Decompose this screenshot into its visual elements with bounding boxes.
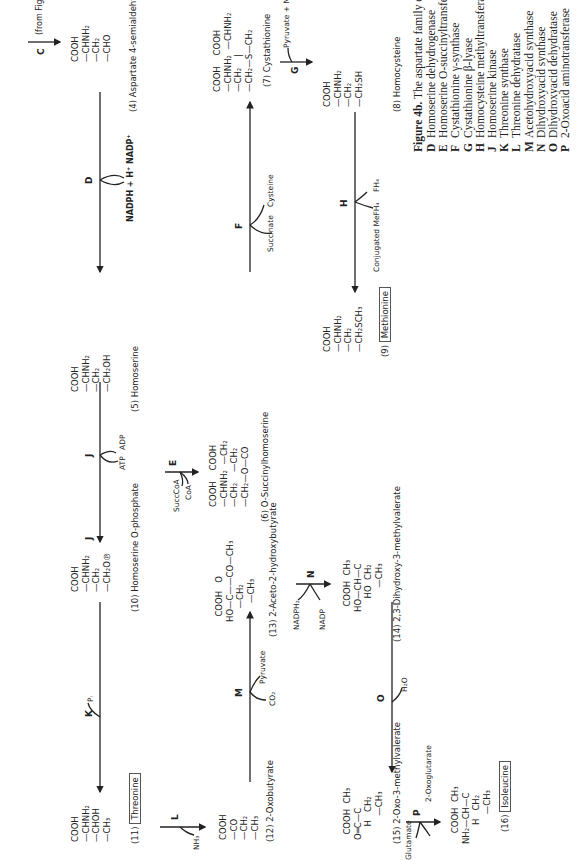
- enzyme-label-e: E: [168, 460, 178, 466]
- enzyme-label-f: F: [234, 223, 244, 229]
- legend-item: LThreonine dehydratase: [510, 0, 522, 152]
- enzyme-label-j2: J: [84, 537, 94, 540]
- compound-7-structure: COOH COOH—CHNH₂ —CHNH₂—CH₂ |—CH₂—S—CH₂: [212, 13, 254, 92]
- o-out: H₂O: [400, 677, 409, 692]
- e-in: SuccCoA: [172, 479, 181, 512]
- p-out: 2-Oxoglutarate: [424, 745, 433, 802]
- n-in: NADPH₂: [292, 600, 301, 630]
- entry-note: (from Fig. 4a): [35, 0, 44, 35]
- j1-out: ADP: [118, 435, 127, 450]
- enzyme-label-j1: J: [84, 454, 94, 457]
- m-out: CO₂: [268, 692, 277, 706]
- compound-5-structure: COOH—CHNH₂—CH₂—CH₂OH: [70, 355, 112, 392]
- p-in: Glutamate: [404, 820, 413, 860]
- h-in: Conjugated MeFH₄: [372, 202, 381, 272]
- n-out: NADP: [318, 609, 327, 630]
- compound-13-structure: COOH O HO—C——CO—CH₃ —CH₂ —CH₃: [214, 541, 256, 622]
- compound-10-name: (10) Homoserine O-phosphate: [130, 483, 140, 612]
- enzyme-label-d: D: [84, 177, 94, 184]
- compound-16-structure: COOH CH₃NH₂—CH—C H CH₂ —CH₃: [450, 786, 492, 844]
- legend-item: KThreonine synthase: [498, 0, 510, 152]
- j1-in: ATP: [118, 456, 127, 470]
- enzyme-label-p: P: [412, 809, 422, 816]
- compound-16-name: (16) Isoleucine: [500, 761, 510, 832]
- m-in: Pyruvate: [258, 651, 267, 684]
- compound-12-structure: COOH—CO—CH₂—CH₃: [218, 814, 260, 840]
- enzyme-label-g: G: [290, 67, 300, 74]
- threonine-box: Threonine: [129, 773, 141, 824]
- legend-item: HHomocysteine methyltransferase: [474, 0, 486, 152]
- compound-8-structure: COOH—CHNH₂—CH₂—CH₂SH: [322, 70, 364, 107]
- enzyme-label-n: N: [306, 570, 316, 578]
- enzyme-label-l: L: [170, 814, 180, 820]
- legend-item: DHomoserine dehydrogenase: [425, 0, 437, 152]
- legend-item: P2-Oxoacid aminotransferase: [559, 0, 571, 152]
- compound-5-name: (5) Homoserine: [130, 346, 140, 412]
- compound-9-structure: COOH—CHNH₂—CH₂—CH₂SCH₃: [322, 307, 364, 352]
- h-out: FH₄: [372, 179, 381, 192]
- legend-item: GCystathionine β-lyase: [462, 0, 474, 152]
- compound-9-name: (9) Methionine: [380, 287, 390, 357]
- enzyme-label-c: C: [36, 48, 46, 55]
- compound-15-name: (15) 2-Oxo-3-methylvalerate: [392, 722, 402, 844]
- compound-10-structure: COOH—CHNH₂—CH₂—CH₂O℗: [70, 553, 112, 592]
- legend-item: MAcetohydroxyacid synthase: [523, 0, 535, 152]
- compound-4-name: (4) Aspartate 4-semialdehyde: [128, 0, 138, 112]
- enzyme-label-m: M: [234, 688, 244, 697]
- e-out: CoA: [184, 485, 193, 500]
- methionine-box: Methionine: [379, 287, 391, 342]
- compound-11-name: (11) Threonine: [130, 773, 140, 844]
- g-out: Pyruvate + NH₃: [282, 0, 291, 48]
- compound-7-name: (7) Cystathionine: [262, 14, 272, 87]
- compound-13-name: (13) 2-Aceto-2-hydroxybutyrate: [268, 502, 278, 637]
- l-out: NH₃: [192, 836, 201, 850]
- enzyme-legend: DHomoserine dehydrogenase EHomoserine O-…: [425, 0, 571, 152]
- f-in: Cysteine: [266, 174, 275, 207]
- legend-item: ODihydroxyacid dehydratase: [547, 0, 559, 152]
- compound-14-structure: COOH CH₃HO—CH—C HO CH₂ —CH₃: [342, 560, 384, 612]
- compound-8-name: (8) Homocysteine: [392, 37, 402, 113]
- caption-title: Figure 4b. The aspartate family of amino…: [412, 0, 424, 152]
- compound-14-name: (14) 2,3-Dihydroxy-3-methylvalerate: [392, 486, 402, 642]
- compound-15-structure: COOH CH₃O═C—C H CH₂ —CH₃: [342, 788, 384, 840]
- isoleucine-box: Isoleucine: [499, 761, 511, 812]
- compound-4-structure: COOH—CHNH₂—CH₂—CHO: [70, 25, 112, 62]
- legend-item: FCystathionine γ-synthase: [449, 0, 461, 152]
- enzyme-label-k: K: [84, 710, 94, 717]
- figure-caption: Figure 4b. The aspartate family of amino…: [412, 0, 424, 152]
- legend-item: NDihydroxyacid synthase: [535, 0, 547, 152]
- k-out: Pᵢ: [86, 696, 95, 702]
- enzyme-label-o: O: [376, 694, 386, 702]
- legend-item: JHomoserine kinase: [486, 0, 498, 152]
- f-out: Succinate: [266, 215, 275, 252]
- compound-12-name: (12) 2-Oxobutyrate: [265, 760, 275, 842]
- legend-item: EHomoserine O-succinyltransferase: [437, 0, 449, 152]
- enzyme-label-h: H: [339, 199, 349, 207]
- d-cofactors: NADPH + H⁺ NADP⁺: [126, 134, 135, 222]
- compound-6-structure: COOH COOH—CHNH₂ —CH₂—CH₂ —CH₂—CH₂—O—CO: [208, 440, 250, 507]
- compound-11-structure: COOH—CHNH₂—CHOH—CH₃: [70, 805, 112, 842]
